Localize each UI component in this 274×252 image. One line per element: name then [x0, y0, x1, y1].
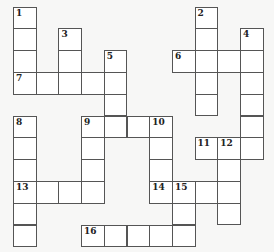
- crossword-cell[interactable]: 15: [172, 181, 196, 204]
- crossword-cell[interactable]: 7: [13, 72, 37, 95]
- crossword-cell[interactable]: [217, 159, 241, 182]
- crossword-cell[interactable]: [36, 72, 60, 95]
- crossword-cell[interactable]: 14: [149, 181, 173, 204]
- crossword-cell[interactable]: [149, 159, 173, 182]
- clue-number: 14: [152, 183, 165, 192]
- crossword-cell[interactable]: 10: [149, 116, 173, 139]
- crossword-cell[interactable]: [81, 159, 105, 182]
- crossword-cell[interactable]: [149, 225, 173, 248]
- crossword-cell[interactable]: [240, 137, 264, 160]
- crossword-cell[interactable]: 11: [195, 137, 219, 160]
- crossword-cell[interactable]: [195, 181, 219, 204]
- crossword-cell[interactable]: 3: [58, 28, 82, 51]
- crossword-cell[interactable]: 8: [13, 116, 37, 139]
- crossword-cell[interactable]: [13, 225, 37, 248]
- crossword-cell[interactable]: [13, 203, 37, 226]
- crossword-cell[interactable]: [13, 28, 37, 51]
- crossword-cell[interactable]: [104, 116, 128, 139]
- crossword-cell[interactable]: 5: [104, 50, 128, 73]
- crossword-cell[interactable]: 2: [195, 7, 219, 30]
- clue-number: 4: [243, 30, 249, 39]
- clue-number: 11: [198, 139, 211, 148]
- crossword-cell[interactable]: [81, 181, 105, 204]
- crossword-cell[interactable]: [81, 72, 105, 95]
- clue-number: 12: [220, 139, 233, 148]
- clue-number: 13: [16, 183, 29, 192]
- crossword-cell[interactable]: [195, 94, 219, 117]
- clue-number: 16: [84, 227, 97, 236]
- crossword-cell[interactable]: [240, 94, 264, 117]
- crossword-cell[interactable]: [172, 203, 196, 226]
- crossword-cell[interactable]: [127, 225, 151, 248]
- crossword-cell[interactable]: 16: [81, 225, 105, 248]
- crossword-cell[interactable]: 13: [13, 181, 37, 204]
- crossword-cell[interactable]: [240, 72, 264, 95]
- crossword-grid: 12345678910111213141516: [0, 0, 274, 252]
- crossword-cell[interactable]: [172, 225, 196, 248]
- crossword-cell[interactable]: 1: [13, 7, 37, 30]
- clue-number: 5: [107, 52, 113, 61]
- clue-number: 6: [175, 52, 181, 61]
- crossword-cell[interactable]: [13, 137, 37, 160]
- clue-number: 2: [198, 9, 204, 18]
- clue-number: 3: [61, 30, 67, 39]
- crossword-cell[interactable]: [104, 72, 128, 95]
- crossword-cell[interactable]: [13, 159, 37, 182]
- crossword-cell[interactable]: [36, 181, 60, 204]
- crossword-cell[interactable]: [127, 116, 151, 139]
- crossword-cell[interactable]: 12: [217, 137, 241, 160]
- crossword-cell[interactable]: 4: [240, 28, 264, 51]
- crossword-cell[interactable]: [217, 203, 241, 226]
- crossword-cell[interactable]: [195, 72, 219, 95]
- crossword-cell[interactable]: [149, 137, 173, 160]
- clue-number: 7: [16, 74, 22, 83]
- crossword-cell[interactable]: [217, 181, 241, 204]
- crossword-cell[interactable]: 9: [81, 116, 105, 139]
- crossword-cell[interactable]: [195, 50, 219, 73]
- clue-number: 15: [175, 183, 188, 192]
- crossword-cell[interactable]: [13, 50, 37, 73]
- crossword-cell[interactable]: [240, 50, 264, 73]
- clue-number: 8: [16, 118, 22, 127]
- crossword-cell[interactable]: [104, 225, 128, 248]
- crossword-cell[interactable]: [217, 50, 241, 73]
- crossword-cell[interactable]: [240, 116, 264, 139]
- crossword-cell[interactable]: [104, 94, 128, 117]
- crossword-cell[interactable]: [195, 28, 219, 51]
- crossword-cell[interactable]: [58, 181, 82, 204]
- clue-number: 9: [84, 118, 90, 127]
- clue-number: 1: [16, 9, 22, 18]
- clue-number: 10: [152, 118, 165, 127]
- crossword-cell[interactable]: [58, 50, 82, 73]
- crossword-cell[interactable]: 6: [172, 50, 196, 73]
- crossword-cell[interactable]: [81, 137, 105, 160]
- crossword-cell[interactable]: [58, 72, 82, 95]
